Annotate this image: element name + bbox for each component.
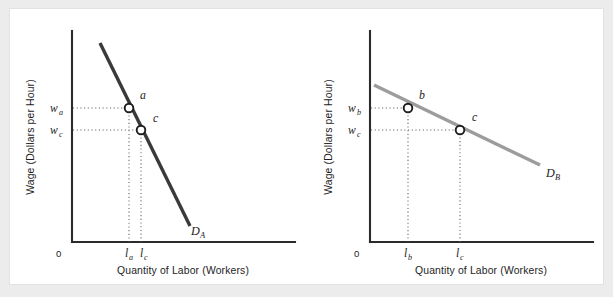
y-tick-label-wc-b-sub: c: [357, 130, 361, 139]
y-tick-label-wb-sub: b: [357, 108, 361, 117]
y-axis-title-a: Wage (Dollars per Hour): [25, 79, 36, 195]
x-axis-title-a: Quantity of Labor (Workers): [117, 265, 249, 276]
data-point-label-c-b: c: [472, 110, 478, 124]
chart-panel-a: 0 Wage (Dollars per Hour) Quantity of La…: [10, 9, 307, 286]
y-tick-label-wa: w: [50, 102, 58, 115]
x-axis-title-b: Quantity of Labor (Workers): [415, 265, 547, 276]
x-tick-label-lb: l: [404, 247, 407, 260]
y-tick-label-wa-sub: a: [59, 108, 63, 117]
curve-label-a: D: [190, 224, 200, 238]
y-axis-title-b: Wage (Dollars per Hour): [323, 79, 334, 195]
x-tick-label-lc-b-sub: c: [460, 253, 464, 262]
origin-label-a: 0: [56, 248, 61, 259]
origin-label-b: 0: [354, 248, 359, 259]
x-tick-label-lc-sub: c: [144, 253, 148, 262]
x-tick-label-lc-b: l: [456, 247, 459, 260]
y-tick-label-wc-b: w: [348, 124, 356, 137]
x-tick-label-la: l: [125, 247, 128, 260]
demand-curve-b: [374, 85, 540, 165]
chart-panel-b: 0 Wage (Dollars per Hour) Quantity of La…: [308, 9, 605, 286]
data-point-marker-b: [404, 104, 413, 113]
x-tick-label-la-sub: a: [129, 253, 133, 262]
data-point-marker-c-a: [137, 126, 146, 135]
x-tick-label-lb-sub: b: [408, 253, 412, 262]
figure-card: 0 Wage (Dollars per Hour) Quantity of La…: [9, 8, 604, 285]
demand-curve-a: [100, 43, 190, 226]
y-tick-label-wc: w: [50, 124, 58, 137]
data-point-label-a: a: [140, 88, 146, 102]
data-point-label-b: b: [419, 88, 425, 102]
y-tick-label-wc-sub: c: [59, 130, 63, 139]
data-point-label-c-a: c: [153, 111, 159, 125]
curve-label-sub-b: B: [555, 173, 560, 182]
data-point-marker-a: [125, 104, 134, 113]
curve-label-b: D: [545, 166, 555, 180]
data-point-marker-c-b: [456, 126, 465, 135]
x-tick-label-lc: l: [140, 247, 143, 260]
curve-label-sub-a: A: [199, 231, 206, 240]
y-tick-label-wb: w: [348, 102, 356, 115]
